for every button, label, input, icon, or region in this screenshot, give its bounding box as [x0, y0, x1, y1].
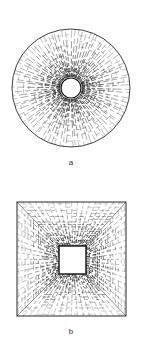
- figure-label-a: a: [61, 158, 81, 168]
- diagram-canvas: [0, 0, 143, 345]
- circular-mesh-figure: [12, 29, 130, 147]
- central-hole: [61, 78, 81, 98]
- figure-label-b: b: [61, 327, 81, 337]
- central-opening: [59, 246, 86, 274]
- square-mesh-figure: [17, 202, 126, 316]
